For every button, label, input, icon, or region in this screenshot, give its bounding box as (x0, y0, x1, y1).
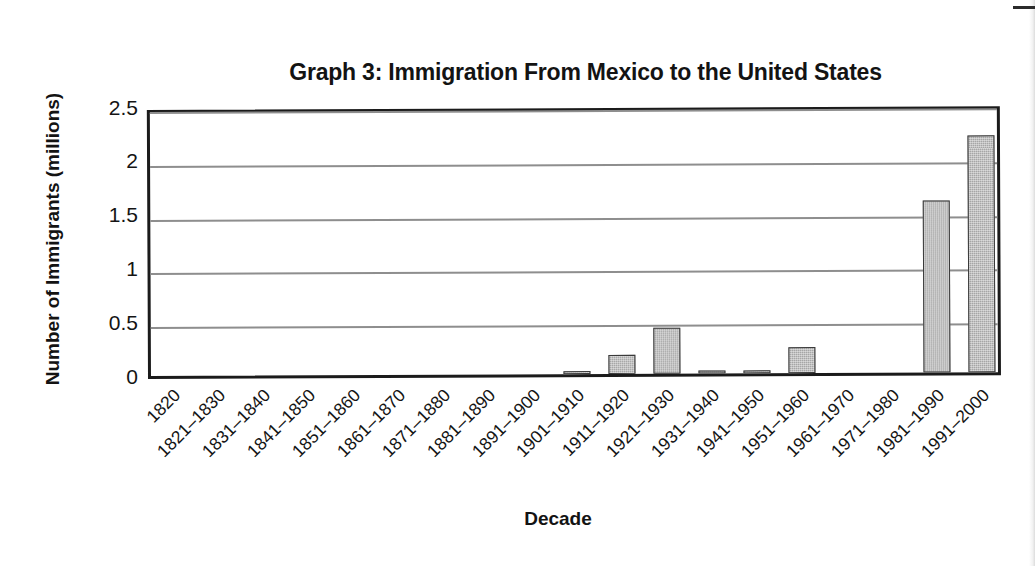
bar-slot (868, 110, 914, 373)
bar-slot (554, 111, 600, 374)
chart-title: Graph 3: Immigration From Mexico to the … (148, 59, 1023, 86)
bar[interactable] (654, 327, 681, 373)
x-tick-slot: 1991–2000 (956, 381, 1001, 501)
bar-slot (733, 110, 779, 373)
bar[interactable] (744, 370, 771, 373)
bar-slot (689, 110, 735, 373)
y-tick-label: 2.5 (78, 96, 138, 120)
x-axis-tick-labels: 18201821–18301831–18401841–18501851–1860… (148, 381, 1001, 501)
bar-slot (419, 112, 465, 375)
bar-slot (374, 112, 420, 375)
plot-area (147, 106, 1001, 379)
y-tick-label: 2 (78, 149, 138, 173)
bar-slot (195, 113, 241, 376)
bar-chart: Graph 3: Immigration From Mexico to the … (0, 0, 1035, 566)
bar[interactable] (564, 371, 591, 374)
bar-slot (958, 109, 1004, 372)
bar[interactable] (699, 370, 726, 373)
bar[interactable] (609, 355, 636, 374)
bar[interactable] (788, 347, 815, 373)
x-axis-title: Decade (148, 508, 968, 530)
bars-layer (150, 109, 998, 376)
y-tick-label: 0.5 (78, 311, 138, 335)
bar-slot (644, 111, 690, 374)
bar[interactable] (967, 136, 995, 373)
bar-slot (240, 112, 286, 375)
bar-slot (509, 111, 555, 374)
y-tick-label: 0 (78, 365, 138, 389)
bar-slot (823, 110, 869, 373)
bar-slot (599, 111, 645, 374)
y-tick-label: 1.5 (78, 203, 138, 227)
bar-slot (778, 110, 824, 373)
y-tick-label: 1 (78, 257, 138, 281)
bar-slot (285, 112, 331, 375)
bar-slot (329, 112, 375, 375)
bar-slot (464, 111, 510, 374)
bar[interactable] (922, 200, 950, 372)
bar-slot (150, 113, 196, 376)
bar-slot (913, 109, 959, 372)
